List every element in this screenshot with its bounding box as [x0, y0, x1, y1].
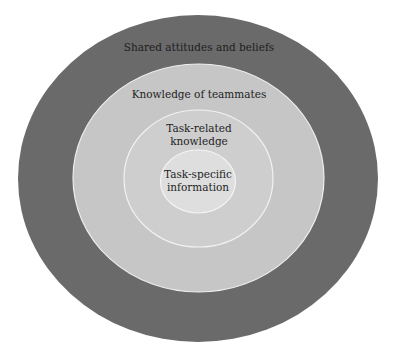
concentric-diagram: Shared attitudes and beliefs Knowledge o… — [0, 0, 398, 351]
label-task-related-line2: knowledge — [166, 135, 232, 148]
label-task-specific-line1: Task-specific — [164, 168, 232, 181]
label-task-related-knowledge: Task-related knowledge — [166, 122, 232, 148]
label-task-specific-line2: information — [164, 181, 232, 194]
label-knowledge-of-teammates: Knowledge of teammates — [132, 88, 267, 101]
label-shared-attitudes: Shared attitudes and beliefs — [124, 41, 274, 54]
label-task-specific-information: Task-specific information — [164, 168, 232, 194]
label-task-related-line1: Task-related — [166, 122, 232, 135]
